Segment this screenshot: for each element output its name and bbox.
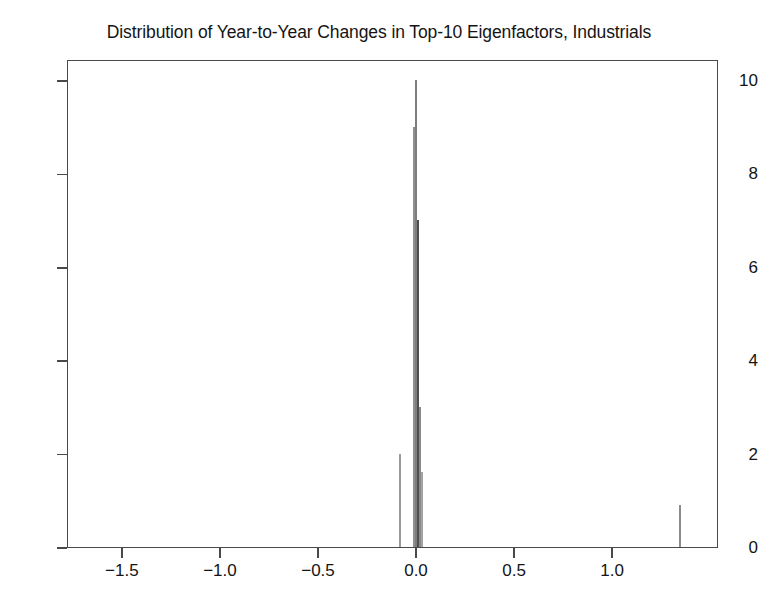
plot-area	[67, 60, 718, 548]
x-axis-tick-label: 0.0	[381, 562, 451, 579]
x-axis-tick	[121, 548, 123, 558]
y-axis-tick	[57, 267, 67, 269]
x-axis-tick-label: −1.5	[87, 562, 157, 579]
chart-figure: Distribution of Year-to-Year Changes in …	[0, 0, 758, 613]
x-axis-tick-label: −0.5	[283, 562, 353, 579]
chart-title: Distribution of Year-to-Year Changes in …	[0, 22, 758, 43]
y-axis-tick	[57, 174, 67, 176]
y-axis-tick-label: 8	[714, 165, 758, 182]
y-axis-tick-label: 2	[714, 446, 758, 463]
x-axis-tick	[219, 548, 221, 558]
y-axis-tick	[57, 547, 67, 549]
x-axis-tick	[317, 548, 319, 558]
histogram-bar	[679, 505, 681, 547]
y-axis-tick-label: 0	[714, 539, 758, 556]
histogram-bar	[399, 454, 401, 547]
y-axis-tick-label: 4	[714, 352, 758, 369]
histogram-bars	[68, 61, 717, 547]
x-axis-tick	[415, 548, 417, 558]
x-axis-tick-label: 1.0	[577, 562, 647, 579]
x-axis-tick-label: 0.5	[479, 562, 549, 579]
y-axis	[0, 0, 67, 613]
x-axis-tick-label: −1.0	[185, 562, 255, 579]
y-axis-tick-label: 10	[714, 72, 758, 89]
histogram-bar	[421, 472, 423, 547]
y-axis-tick	[57, 360, 67, 362]
y-axis-tick	[57, 454, 67, 456]
y-axis-tick	[57, 80, 67, 82]
y-axis-tick-label: 6	[714, 259, 758, 276]
x-axis-tick	[611, 548, 613, 558]
x-axis-tick	[513, 548, 515, 558]
